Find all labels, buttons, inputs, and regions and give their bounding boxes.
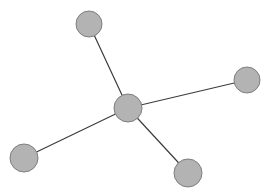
edge-center-right — [128, 80, 247, 108]
node-top — [76, 11, 102, 37]
node-bottom — [174, 159, 202, 187]
graph-canvas — [0, 0, 276, 196]
node-left — [10, 144, 38, 172]
edge-center-left — [24, 108, 128, 158]
nodes-layer — [10, 11, 260, 187]
star-graph — [0, 0, 276, 196]
node-center — [114, 94, 142, 122]
node-right — [234, 67, 260, 93]
